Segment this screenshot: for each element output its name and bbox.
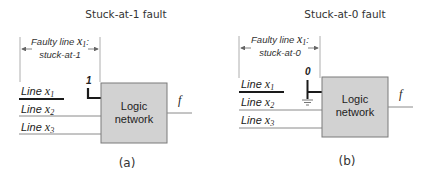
fault-type-label: stuck-at-1 [39, 49, 81, 60]
panel-caption: (b) [339, 154, 356, 168]
box-label-line2: network [115, 113, 154, 125]
stuck-value: 0 [305, 66, 311, 77]
panel-title: Stuck-at-0 fault [304, 8, 385, 20]
box-label-line1: Logic [342, 93, 369, 105]
output-label: f [178, 93, 183, 107]
stuck-at-1-tie [88, 88, 101, 98]
input-label-x2: Line x2 [21, 102, 54, 117]
input-label-x1: Line x1 [21, 84, 54, 99]
stuck-at-fault-diagram: Stuck-at-1 fault Faulty line x1: stuck-a… [0, 0, 433, 186]
panel-caption: (a) [119, 156, 136, 170]
input-label-x3: Line x3 [21, 120, 54, 135]
panel-title: Stuck-at-1 fault [85, 8, 166, 20]
input-label-x1: Line x1 [241, 77, 274, 92]
fault-annotation: Faulty line x1: [31, 34, 89, 49]
input-label-x3: Line x3 [241, 113, 274, 128]
box-label-line2: network [336, 106, 375, 118]
box-label-line1: Logic [121, 100, 148, 112]
input-label-x2: Line x2 [241, 95, 274, 110]
panel-stuck-at-0: Stuck-at-0 fault Faulty line x1: stuck-a… [239, 8, 413, 168]
ground-icon [302, 100, 313, 105]
stuck-value: 1 [86, 75, 92, 86]
panel-stuck-at-1: Stuck-at-1 fault Faulty line x1: stuck-a… [19, 8, 192, 170]
fault-annotation: Faulty line x1: [251, 32, 309, 47]
fault-type-label: stuck-at-0 [259, 47, 301, 58]
output-label: f [399, 87, 404, 101]
